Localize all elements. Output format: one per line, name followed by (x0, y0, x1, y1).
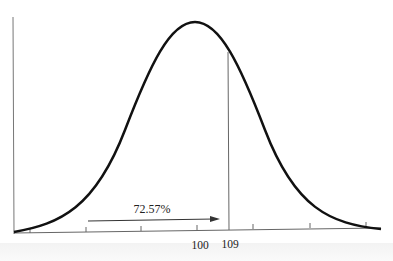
tick-label-mean: 100 (191, 239, 209, 251)
percent-arrow-shaft (88, 219, 214, 221)
arrow-head-icon (210, 216, 220, 222)
normal-curve (14, 22, 381, 232)
x-axis-ticks (30, 222, 366, 233)
percent-label: 72.57% (134, 202, 171, 216)
y-axis (13, 17, 14, 234)
normal-curve-chart: 72.57% 100 109 (0, 0, 393, 261)
marker-line-109 (228, 52, 229, 230)
tick-label-marker: 109 (221, 238, 239, 250)
